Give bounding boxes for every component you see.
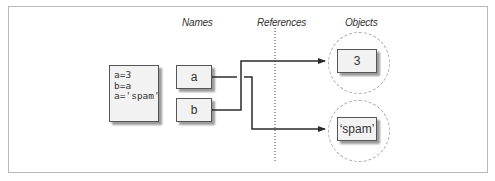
reference-lines	[0, 0, 495, 181]
reference-b-to-3	[212, 61, 325, 110]
reference-a-to-spam-continued	[244, 77, 325, 129]
